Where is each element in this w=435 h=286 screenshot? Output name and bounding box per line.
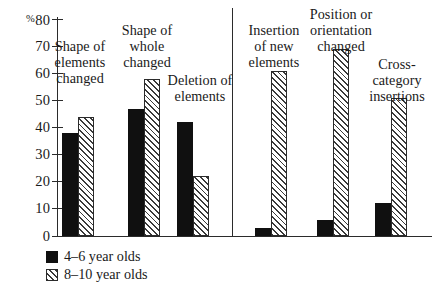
category-label-cross-category-insertions: Cross- category insertions (359, 56, 435, 105)
bar-8-10-position-or-orientation-changed (333, 49, 349, 236)
bar-4-6-cross-category-insertions (375, 203, 391, 236)
legend-item-8-10-year-olds: 8–10 year olds (46, 266, 148, 283)
bar-chart: %80 70 60 50 40 30 20 10 (0, 0, 435, 286)
legend-label: 4–6 year olds (64, 249, 140, 263)
bar-8-10-cross-category-insertions (391, 98, 407, 236)
bar-4-6-insertion-of-new-elements (255, 228, 271, 236)
category-label-deletion-of-elements: Deletion of elements (158, 72, 242, 104)
bar-4-6-shape-of-elements-changed (62, 133, 78, 236)
bar-8-10-deletion-of-elements (193, 176, 209, 236)
category-label-position-or-orientation-changed: Position or orientation changed (298, 6, 384, 55)
legend: 4–6 year olds 8–10 year olds (46, 248, 148, 284)
bar-8-10-shape-of-elements-changed (78, 117, 94, 236)
bar-4-6-deletion-of-elements (177, 122, 193, 236)
legend-label: 8–10 year olds (64, 267, 148, 281)
legend-swatch-hatched-icon (46, 269, 58, 281)
bar-4-6-position-or-orientation-changed (317, 220, 333, 236)
legend-swatch-solid-icon (46, 251, 58, 263)
bar-8-10-insertion-of-new-elements (271, 71, 287, 236)
bar-4-6-shape-of-whole-changed (128, 109, 144, 236)
legend-item-4-6-year-olds: 4–6 year olds (46, 248, 148, 265)
x-axis-line (57, 236, 432, 237)
category-label-shape-of-whole-changed: Shape of whole changed (104, 22, 190, 71)
